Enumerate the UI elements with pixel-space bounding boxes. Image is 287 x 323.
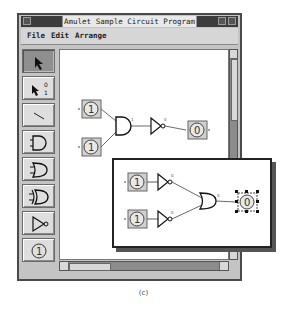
input-switch-2[interactable]: 1 [78, 138, 101, 156]
title-bar[interactable]: Amulet Sample Circuit Program [21, 16, 238, 27]
menu-edit[interactable]: Edit [51, 31, 69, 40]
svg-text:1: 1 [36, 246, 42, 257]
svg-text:1: 1 [131, 117, 134, 122]
svg-text:0: 0 [44, 81, 48, 88]
selection-handle[interactable] [245, 190, 248, 193]
scroll-left-arrow-icon[interactable] [60, 262, 69, 270]
scroll-up-arrow-icon[interactable] [230, 50, 237, 59]
and-gate-tool-button[interactable] [22, 130, 55, 154]
svg-text:0: 0 [171, 210, 174, 215]
svg-text:0: 0 [194, 125, 200, 136]
selection-handle[interactable] [256, 190, 259, 193]
zoomed-inset-panel: 1 1 0 0 0 [112, 158, 272, 248]
inset-input-switch-2[interactable]: 1 [124, 210, 147, 228]
selection-handle[interactable] [235, 210, 238, 213]
selection-handle[interactable] [235, 190, 238, 193]
input-switch-icon: 1 [23, 239, 56, 263]
menu-file[interactable]: File [27, 31, 45, 40]
vertical-scroll-thumb[interactable] [231, 59, 238, 121]
menu-arrange[interactable]: Arrange [75, 31, 107, 40]
wire[interactable] [172, 205, 202, 219]
or-gate-tool-button[interactable] [22, 157, 55, 181]
and-gate-icon [23, 131, 56, 155]
figure-caption: (c) [0, 289, 287, 297]
maximize-button[interactable] [228, 17, 236, 25]
not-gate-icon [23, 212, 56, 236]
svg-text:0: 0 [244, 197, 250, 208]
wire-line-icon [23, 104, 56, 128]
tool-palette: 01 1 [22, 49, 58, 275]
menu-bar: File Edit Arrange [21, 28, 238, 45]
inset-not-gate-2[interactable]: 0 [158, 210, 174, 227]
inset-circuit: 1 1 0 0 0 [114, 160, 270, 246]
window-title: Amulet Sample Circuit Program [62, 16, 197, 27]
input-switch-1[interactable]: 1 [78, 100, 101, 118]
svg-text:1: 1 [44, 89, 48, 96]
svg-text:1: 1 [88, 104, 94, 115]
inset-input-switch-1[interactable]: 1 [124, 173, 147, 191]
wire[interactable] [165, 126, 186, 130]
not-gate-tool-button[interactable] [22, 211, 55, 235]
arrow-toggle-icon: 01 [23, 77, 56, 101]
selection-handle[interactable] [256, 200, 259, 203]
horizontal-scrollbar[interactable] [59, 261, 229, 271]
wire[interactable] [101, 132, 116, 147]
not-gate[interactable]: 0 [151, 117, 167, 134]
svg-text:1: 1 [134, 214, 140, 225]
xor-gate-icon [23, 185, 56, 209]
input-switch-tool-button[interactable]: 1 [22, 238, 55, 262]
svg-text:1: 1 [134, 177, 140, 188]
or-gate-icon [23, 158, 56, 182]
inset-not-gate-1[interactable]: 0 [158, 173, 174, 190]
svg-text:1: 1 [88, 142, 94, 153]
wire[interactable] [101, 109, 116, 121]
selection-handle[interactable] [245, 210, 248, 213]
svg-text:0: 0 [164, 117, 167, 122]
arrow-pointer-icon [23, 50, 56, 74]
selection-handle[interactable] [256, 210, 259, 213]
select-tool-button[interactable] [22, 49, 55, 73]
output-indicator[interactable]: 0 [188, 121, 210, 139]
selection-handle[interactable] [235, 200, 238, 203]
minimize-button[interactable] [218, 17, 226, 25]
wire[interactable] [216, 201, 236, 202]
svg-text:0: 0 [171, 173, 174, 178]
window-menu-button[interactable] [23, 17, 31, 25]
xor-gate-tool-button[interactable] [22, 184, 55, 208]
inset-output-indicator-selected[interactable]: 0 [235, 190, 259, 213]
wire-tool-button[interactable] [22, 103, 55, 127]
wire[interactable] [172, 182, 202, 198]
horizontal-scroll-thumb[interactable] [69, 263, 111, 271]
svg-text:0: 0 [217, 193, 220, 198]
scroll-right-arrow-icon[interactable] [219, 262, 228, 270]
toggle-value-tool-button[interactable]: 01 [22, 76, 55, 100]
